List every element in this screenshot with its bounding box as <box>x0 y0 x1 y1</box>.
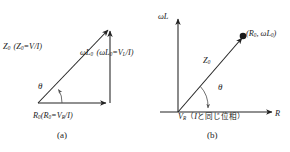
panel-a-group <box>38 30 110 103</box>
phasor-impedance-figure: Z0 (Z0=V/I) ωL0 (ωL0=VL/I) R0(R0=VR/I) θ… <box>0 0 290 152</box>
label-axis-r-b: R <box>275 110 280 118</box>
caption-panel-a: (a) <box>57 131 67 140</box>
label-z0-b: Z0 <box>203 57 210 65</box>
vector-z0-b <box>178 38 242 112</box>
label-theta-b: θ <box>218 83 222 92</box>
caption-panel-b: (b) <box>207 131 218 140</box>
label-axis-omega-l-b: ωL <box>158 13 168 21</box>
diagram-canvas <box>0 0 290 152</box>
label-z0-a: Z0 (Z0=V/I) <box>3 43 42 51</box>
label-theta-a: θ <box>38 82 42 91</box>
label-vr-phase-note-b: VR（Iと同じ位相） <box>178 112 245 121</box>
vector-z0-a <box>38 30 108 103</box>
label-omega-l0-a: ωL0 (ωL0=VL/I) <box>80 49 134 57</box>
angle-arc-b <box>200 86 208 108</box>
label-r0-a: R0(R0=VR/I) <box>33 112 73 120</box>
angle-arc-a <box>59 90 63 104</box>
label-point-coordinates-b: (R0, ωL0) <box>246 30 276 38</box>
